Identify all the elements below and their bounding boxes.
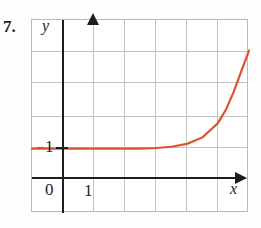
y-axis-arrow-icon (87, 13, 99, 25)
x-tick-label-1: 1 (84, 181, 93, 201)
y-tick-mark-1 (56, 147, 68, 149)
y-axis-line (62, 20, 64, 213)
y-tick-label-1: 1 (45, 137, 54, 157)
x-axis-label: x (230, 180, 237, 198)
x-axis-line (32, 177, 238, 179)
function-curve (32, 20, 249, 213)
problem-number: 7. (3, 18, 16, 35)
y-axis-label: y (42, 17, 49, 35)
y-tick-dash (37, 147, 44, 148)
origin-tick-label: 0 (45, 180, 54, 200)
graph-plot-area: y x 0 1 1 (31, 19, 248, 212)
